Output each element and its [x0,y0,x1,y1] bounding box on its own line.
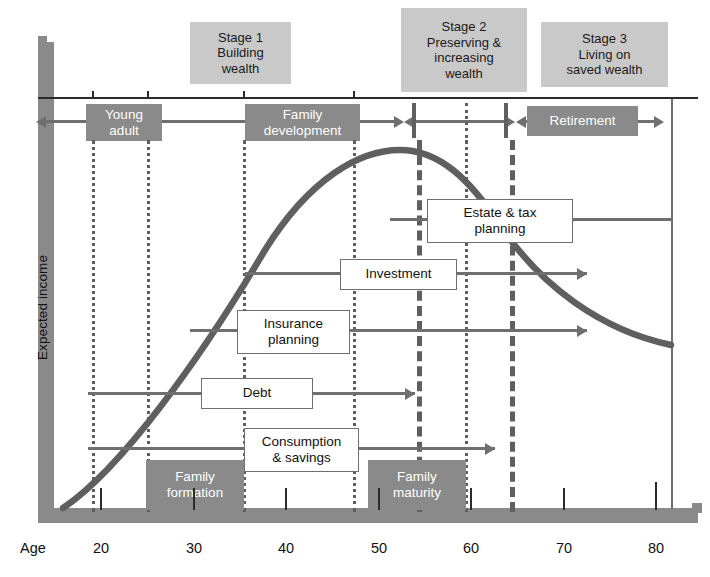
y-axis-label: Expected income [35,228,50,388]
stage-2-line-3: increasing [427,50,501,66]
young-adult-line-1: Young [105,107,143,123]
phase-sep-1 [412,103,416,138]
x-tick-label-80: 80 [636,540,676,556]
x-tick-label-70: 70 [544,540,584,556]
family-development-line-2: development [264,123,341,139]
x-tick-70 [563,488,565,510]
x-tick-label-50: 50 [359,540,399,556]
guide-age-25 [147,140,150,512]
x-tick-label-30: 30 [174,540,214,556]
x-tick-label-60: 60 [451,540,491,556]
activity-box-investment[interactable]: Investment [340,259,457,290]
debt-arrow [405,388,415,400]
stage-2-line-2: Preserving & [427,35,501,51]
phase-family-maturity: Family maturity [368,460,466,510]
retirement-label: Retirement [549,113,615,129]
x-tick-label-20: 20 [81,540,121,556]
guide-age-60 [465,140,468,512]
investment-label: Investment [365,266,431,283]
insurance-line-left [190,329,240,332]
phase-arrow-left [36,116,46,128]
top-rule [38,97,698,99]
x-tick-80 [655,482,657,510]
phase-band-line-mid [412,120,505,123]
debt-line-left [88,392,205,395]
phase-retirement: Retirement [527,106,638,136]
phase-sep-2 [504,103,508,138]
x-tick-20 [100,488,102,510]
insurance-line-right [345,329,587,332]
debt-line-right [305,392,415,395]
stage-3-line-3: saved wealth [567,62,643,78]
phase-arrow-right [654,116,664,128]
activity-box-estate-tax-planning[interactable]: Estate & tax planning [427,199,573,243]
insurance-line-text-1: Insurance [264,316,323,333]
consumption-arrow [485,443,495,455]
stage-3-line-2: Living on [567,47,643,63]
x-tick-40 [285,488,287,510]
x-tick-60 [470,488,472,510]
x-axis-label: Age [20,540,46,556]
stage-1-line-1: Stage 1 [217,30,263,46]
phase-arrow-stage3-start [516,116,526,128]
phase-arrow-stage1-end [394,116,404,128]
family-development-line-1: Family [264,107,341,123]
stage-box-2: Stage 2 Preserving & increasing wealth [401,8,527,92]
investment-line-left [245,272,343,275]
investment-line-right [452,272,587,275]
guide-age-54 [417,140,422,512]
family-formation-line-1: Family [167,469,223,485]
stage-box-1: Stage 1 Building wealth [190,22,291,84]
consumption-line-right [355,447,495,450]
x-tick-30 [193,488,195,510]
stage-1-line-3: wealth [217,61,263,77]
activity-box-insurance-planning[interactable]: Insurance planning [237,310,350,354]
top-tick-3 [243,91,245,97]
consumption-line-text-1: Consumption [262,434,342,451]
estate-line-left [390,218,432,221]
family-maturity-line-2: maturity [393,485,441,501]
debt-label: Debt [243,385,272,402]
x-tick-label-40: 40 [266,540,306,556]
phase-young-adult: Young adult [86,104,162,141]
x-axis-arrow-cap [692,503,702,513]
x-axis-bar [38,508,698,523]
insurance-line-text-2: planning [264,332,323,349]
insurance-arrow [577,325,587,337]
right-rule [671,99,673,509]
consumption-line-text-2: & savings [262,450,342,467]
financial-life-cycle-chart: Expected income Age Stage 1 Building wea… [0,0,710,577]
stage-2-line-4: wealth [427,66,501,82]
activity-box-consumption-savings[interactable]: Consumption & savings [244,428,359,472]
family-formation-line-2: formation [167,485,223,501]
guide-age-64 [510,140,515,512]
top-tick-1 [92,91,94,97]
young-adult-line-2: adult [105,123,143,139]
phase-sep-dotted [465,103,468,138]
phase-family-development: Family development [245,104,360,141]
stage-box-3: Stage 3 Living on saved wealth [541,22,668,87]
estate-line-text-2: planning [464,221,537,238]
top-tick-2 [147,91,149,97]
guide-age-19 [92,140,95,512]
top-tick-4 [353,91,355,97]
estate-line-text-1: Estate & tax [464,205,537,222]
estate-line-right [566,218,671,221]
investment-arrow [577,268,587,280]
stage-1-line-2: Building [217,45,263,61]
stage-2-line-1: Stage 2 [427,19,501,35]
consumption-line-left [88,447,248,450]
activity-box-debt[interactable]: Debt [201,378,313,409]
stage-3-line-1: Stage 3 [567,31,643,47]
phase-family-formation: Family formation [146,460,244,510]
x-tick-50 [378,488,380,510]
family-maturity-line-1: Family [393,469,441,485]
